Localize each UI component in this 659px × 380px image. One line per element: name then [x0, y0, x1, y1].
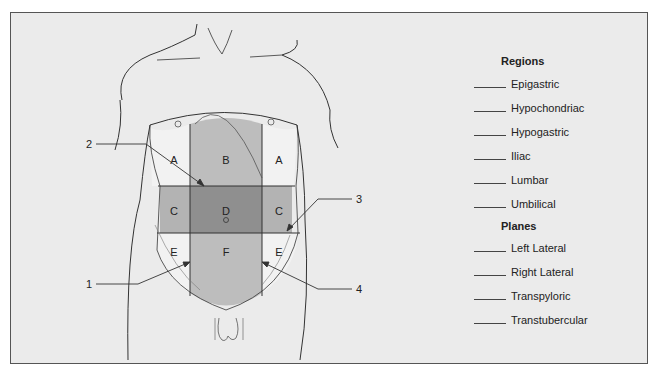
region-item: Epigastric — [474, 75, 644, 99]
callout-1: 1 — [86, 278, 92, 290]
label-c-right: C — [275, 205, 283, 217]
answer-blank[interactable] — [474, 195, 506, 208]
answer-blank[interactable] — [474, 311, 506, 324]
label-e-right: E — [275, 246, 282, 258]
callout-4: 4 — [356, 283, 362, 295]
answer-blank[interactable] — [474, 123, 506, 136]
callout-2: 2 — [86, 138, 92, 150]
answer-blank[interactable] — [474, 239, 506, 252]
plane-item: Transpyloric — [474, 287, 644, 311]
region-item: Iliac — [474, 147, 644, 171]
region-item: Umbilical — [474, 195, 644, 219]
answer-blank[interactable] — [474, 147, 506, 160]
label-e-left: E — [170, 246, 177, 258]
region-item: Hypochondriac — [474, 99, 644, 123]
planes-list: Left Lateral Right Lateral Transpyloric … — [474, 239, 644, 335]
label-f: F — [223, 246, 230, 258]
callout-3: 3 — [356, 193, 362, 205]
nipple-right-icon — [268, 119, 274, 125]
label-c-left: C — [170, 205, 178, 217]
label-d: D — [222, 205, 230, 217]
label-a-right: A — [275, 154, 283, 166]
regions-heading: Regions — [501, 52, 644, 70]
region-b — [190, 118, 262, 186]
plane-item: Left Lateral — [474, 239, 644, 263]
answer-key: Regions Epigastric Hypochondriac Hypogas… — [474, 52, 644, 337]
region-item: Lumbar — [474, 171, 644, 195]
answer-blank[interactable] — [474, 171, 506, 184]
answer-blank[interactable] — [474, 99, 506, 112]
region-f — [190, 233, 262, 306]
region-item: Hypogastric — [474, 123, 644, 147]
genital-outline — [218, 318, 238, 341]
regions-list: Epigastric Hypochondriac Hypogastric Ili… — [474, 75, 644, 219]
plane-item: Transtubercular — [474, 311, 644, 335]
answer-blank[interactable] — [474, 263, 506, 276]
plane-item: Right Lateral — [474, 263, 644, 287]
nipple-left-icon — [175, 121, 181, 127]
label-b: B — [222, 154, 229, 166]
answer-blank[interactable] — [474, 287, 506, 300]
answer-blank[interactable] — [474, 75, 506, 88]
planes-heading: Planes — [501, 217, 644, 235]
